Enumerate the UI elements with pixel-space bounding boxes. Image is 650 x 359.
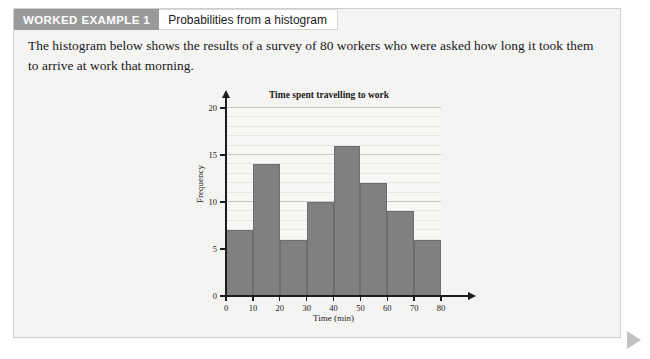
histogram-bar <box>253 164 280 296</box>
worked-example-header: WORKED EXAMPLE 1 Probabilities from a hi… <box>14 9 338 30</box>
y-axis-tick-label: 20 <box>191 103 217 113</box>
histogram-bar <box>414 240 441 296</box>
histogram-bar <box>226 230 253 296</box>
x-axis-tick <box>413 296 414 301</box>
histogram-bar <box>334 146 361 296</box>
histogram-chart: Time spent travelling to work 05101520 0… <box>179 87 479 327</box>
gridline <box>226 126 441 127</box>
x-axis-arrow-icon <box>468 292 476 300</box>
histogram-bar <box>387 211 414 296</box>
x-axis-tick <box>387 296 388 301</box>
plot-area <box>226 108 441 296</box>
x-axis-tick <box>279 296 280 301</box>
worked-example-title: Probabilities from a histogram <box>159 9 338 30</box>
y-axis-arrow-icon <box>222 90 230 98</box>
y-axis-tick <box>220 107 225 108</box>
x-axis-tick-label: 20 <box>268 303 292 313</box>
y-axis-tick <box>220 248 225 249</box>
x-axis-tick-label: 80 <box>429 303 453 313</box>
histogram-bar <box>360 183 387 296</box>
x-axis-label: Time (min) <box>226 313 441 323</box>
x-axis-tick-label: 0 <box>214 303 238 313</box>
x-axis-tick-label: 30 <box>295 303 319 313</box>
histogram-bar <box>307 202 334 296</box>
y-axis-line <box>225 97 227 297</box>
y-axis-tick <box>220 295 225 296</box>
worked-example-tag: WORKED EXAMPLE 1 <box>14 9 159 30</box>
worked-example-panel: WORKED EXAMPLE 1 Probabilities from a hi… <box>13 8 621 338</box>
example-paragraph: The histogram below shows the results of… <box>28 36 603 76</box>
x-axis-tick-label: 40 <box>322 303 346 313</box>
x-axis-tick-label: 70 <box>402 303 426 313</box>
x-axis-tick-label: 50 <box>348 303 372 313</box>
x-axis-tick <box>306 296 307 301</box>
x-axis-tick-label: 10 <box>241 303 265 313</box>
x-axis-tick <box>360 296 361 301</box>
next-play-triangle-icon[interactable] <box>627 331 641 349</box>
y-axis-tick-label: 0 <box>191 291 217 301</box>
y-axis-tick-label: 5 <box>191 244 217 254</box>
histogram-bar <box>280 240 307 296</box>
gridline <box>226 135 441 136</box>
gridline <box>226 107 441 108</box>
gridline <box>226 116 441 117</box>
y-axis-tick <box>220 154 225 155</box>
y-axis-label: Frequency <box>195 139 205 229</box>
x-axis-tick <box>333 296 334 301</box>
x-axis-tick <box>225 296 226 301</box>
x-axis-line <box>226 295 469 297</box>
x-axis-tick-label: 60 <box>375 303 399 313</box>
x-axis-tick <box>440 296 441 301</box>
y-axis-tick <box>220 201 225 202</box>
x-axis-tick <box>252 296 253 301</box>
